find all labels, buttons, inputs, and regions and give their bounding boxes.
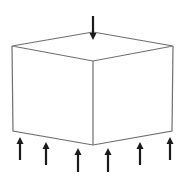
upward-reaction-arrows — [17, 137, 174, 172]
arrow-up-icon — [17, 137, 24, 160]
arrow-down-icon — [90, 16, 97, 40]
cube-left-face — [12, 46, 93, 145]
arrow-up-icon — [75, 148, 82, 172]
cube-right-face — [93, 46, 173, 145]
arrow-up-icon — [43, 142, 50, 165]
downward-load-arrow-icon — [90, 16, 97, 40]
cube — [12, 32, 173, 145]
arrow-up-icon — [105, 148, 112, 172]
cube-load-diagram — [0, 0, 183, 182]
arrow-up-icon — [137, 142, 144, 165]
arrow-up-icon — [167, 137, 174, 160]
